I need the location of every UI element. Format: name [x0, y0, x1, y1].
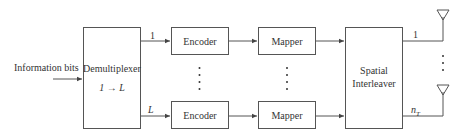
output-label-bottom: nT [411, 104, 420, 120]
branch-label-bottom: L [148, 104, 154, 116]
branch-label-top: 1 [150, 30, 155, 42]
demux-box [84, 28, 141, 129]
mapper-top-label: Mapper [258, 35, 316, 48]
input-label: Information bits [14, 62, 79, 74]
encoder-bottom-label: Encoder [171, 109, 229, 122]
interleaver-line2: Interleaver [345, 77, 403, 90]
vertical-dots-icon [199, 55, 445, 90]
demux-subtitle: 1 → L [83, 81, 141, 94]
interleaver-line1: Spatial [345, 64, 403, 77]
block-diagram: Information bits Demultiplexer 1 → L 1 L… [0, 0, 466, 137]
encoder-top-label: Encoder [171, 35, 229, 48]
mapper-bottom-label: Mapper [258, 109, 316, 122]
demux-title: Demultiplexer [83, 62, 141, 75]
output-label-top: 1 [413, 29, 418, 41]
